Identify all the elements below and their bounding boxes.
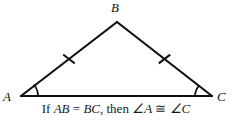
caption: If AB = BC, then ∠A ≅ ∠C	[0, 101, 232, 117]
caption-segment-bc: BC	[83, 101, 100, 116]
caption-angle-c: ∠C	[170, 101, 191, 116]
caption-comma: ,	[100, 101, 103, 116]
caption-equals-sign: =	[73, 101, 80, 116]
caption-segment-ab: AB	[54, 101, 70, 116]
caption-congruent-sign: ≅	[155, 101, 166, 116]
angle-arc-c	[195, 86, 199, 96]
angle-arc-a	[34, 85, 38, 96]
caption-then-word: then	[107, 101, 129, 116]
caption-angle-a: ∠A	[132, 101, 152, 116]
vertex-label-b: B	[111, 1, 119, 14]
caption-if-word: If	[42, 101, 51, 116]
